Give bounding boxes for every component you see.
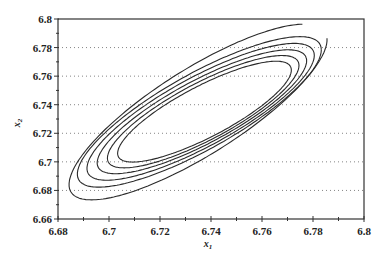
y-tick-label: 6.8 — [38, 13, 52, 25]
contour-chart: 6.666.686.76.726.746.766.786.86.686.76.7… — [0, 0, 379, 261]
ticks — [54, 19, 364, 222]
contour-level-5 — [77, 37, 321, 188]
y-tick-label: 6.76 — [33, 70, 53, 82]
x-tick-label: 6.68 — [48, 225, 68, 237]
y-tick-label: 6.66 — [33, 213, 53, 225]
y-tick-label: 6.78 — [33, 42, 53, 54]
y-tick-label: 6.74 — [33, 99, 53, 111]
x-tick-label: 6.8 — [357, 225, 371, 237]
x-tick-label: 6.74 — [201, 225, 221, 237]
y-axis-label: x2 — [11, 118, 24, 128]
x-tick-label: 6.72 — [150, 225, 170, 237]
contours — [69, 24, 327, 200]
y-tick-label: 6.72 — [33, 127, 53, 139]
x-tick-label: 6.7 — [102, 225, 116, 237]
y-tick-label: 6.7 — [38, 156, 52, 168]
y-tick-label: 6.68 — [33, 184, 53, 196]
x-tick-label: 6.78 — [303, 225, 323, 237]
plot-frame — [58, 19, 364, 219]
gridlines — [58, 48, 364, 191]
x-axis-label: x1 — [203, 238, 213, 251]
x-tick-label: 6.76 — [252, 225, 272, 237]
